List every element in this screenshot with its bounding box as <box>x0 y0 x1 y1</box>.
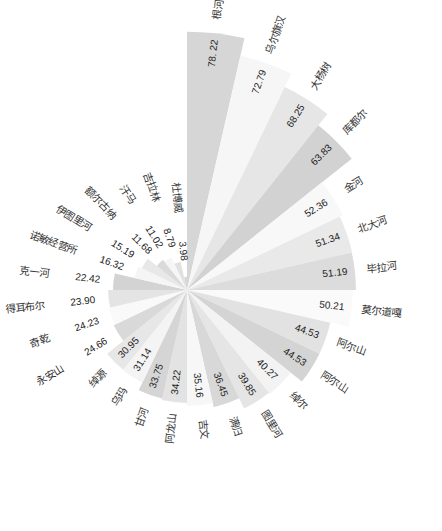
value-label: 3.98 <box>177 241 190 262</box>
value-label: 24.23 <box>73 315 101 334</box>
category-label: 吉拉林 <box>141 171 163 204</box>
category-label: 阿尔山 <box>319 369 351 395</box>
value-label: 23.90 <box>70 294 97 308</box>
value-label: 22.42 <box>75 271 102 285</box>
category-label: 伊图里河 <box>54 202 95 234</box>
category-label: 满归 <box>227 414 245 437</box>
category-label: 莫尔道嘎 <box>361 303 403 320</box>
category-label: 乌玛 <box>108 385 129 408</box>
category-label: 吉文 <box>197 418 211 440</box>
category-label: 甘河 <box>132 405 150 429</box>
value-label: 16.32 <box>98 253 126 272</box>
category-label: 得耳布尔 <box>4 299 45 315</box>
category-label: 绰源 <box>86 366 109 389</box>
rose-chart: 78. 2272.7968.2563.8352.3651.3451.1950.2… <box>0 0 442 531</box>
category-label: 图里河 <box>259 408 286 441</box>
value-label: 8.79 <box>161 227 178 249</box>
category-label: 诺敏经营所 <box>28 228 80 256</box>
category-label: 乌尔旗汉 <box>263 13 288 56</box>
category-label: 阿龙山 <box>163 413 178 444</box>
category-label: 奇乾 <box>28 331 52 349</box>
category-label: 金河 <box>341 174 365 195</box>
category-label: 克一河 <box>19 264 51 279</box>
category-label: 北大河 <box>356 213 389 235</box>
category-label: 大杨树 <box>307 59 334 92</box>
category-label: 永安山 <box>34 362 66 388</box>
category-label: 阿尔山 <box>335 336 367 357</box>
category-label: 库都尔 <box>339 106 369 136</box>
category-label: 绰尔 <box>287 389 310 412</box>
category-label: 汗马 <box>118 183 139 206</box>
category-label: 根河 <box>211 0 225 20</box>
category-label: 毕拉河 <box>366 259 398 274</box>
category-label: 额尔古纳 <box>83 184 120 221</box>
category-label: 杜博威 <box>170 182 185 214</box>
value-label: 24.66 <box>82 335 109 358</box>
